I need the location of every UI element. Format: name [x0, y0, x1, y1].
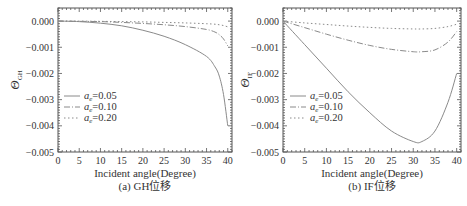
x-tick-label: 20: [138, 155, 148, 166]
x-tick-label: 40: [223, 155, 233, 166]
x-tick-label: 30: [180, 155, 190, 166]
x-tick-label: 25: [387, 155, 397, 166]
y-tick-label: −0.003: [26, 94, 54, 105]
x-tick-label: 35: [430, 155, 440, 166]
series-line-dashdot: [283, 21, 457, 52]
y-axis-title: ΘGH: [7, 70, 24, 90]
x-tick-label: 25: [159, 155, 169, 166]
chart-caption: (b) IF位移: [348, 179, 395, 193]
legend: ae=0.05ae=0.10ae=0.20: [290, 90, 343, 125]
x-tick-label: 20: [365, 155, 375, 166]
x-tick-label: 40: [452, 155, 462, 166]
x-tick-label: 15: [117, 155, 127, 166]
x-tick-label: 35: [202, 155, 212, 166]
x-tick-label: 5: [77, 155, 82, 166]
y-tick-label: −0.005: [26, 147, 54, 158]
y-tick-label: −0.002: [26, 68, 54, 79]
x-tick-label: 5: [302, 155, 307, 166]
plot-frame: [283, 8, 461, 152]
legend-label: ae=0.20: [310, 112, 343, 125]
y-tick-label: −0.003: [251, 94, 279, 105]
figure-canvas: 05101520253035400.000−0.001−0.002−0.003−…: [0, 0, 467, 206]
y-tick-label: −0.004: [26, 120, 54, 131]
x-axis-title: Incident angle(Degree): [321, 167, 423, 180]
y-tick-label: 0.000: [32, 16, 55, 27]
series-line-dotted: [283, 21, 457, 29]
y-tick-label: −0.001: [251, 42, 279, 53]
y-tick-label: −0.001: [26, 42, 54, 53]
x-tick-label: 0: [56, 155, 61, 166]
x-axis-title: Incident angle(Degree): [94, 167, 196, 180]
legend-label: ae=0.20: [84, 112, 117, 125]
x-tick-label: 15: [343, 155, 353, 166]
chart-a: 05101520253035400.000−0.001−0.002−0.003−…: [7, 8, 233, 193]
x-tick-label: 30: [408, 155, 418, 166]
y-tick-label: −0.002: [251, 68, 279, 79]
chart-b: 05101520253035400.000−0.001−0.002−0.003−…: [237, 8, 462, 193]
legend: ae=0.05ae=0.10ae=0.20: [64, 90, 117, 125]
chart-caption: (a) GH位移: [119, 179, 172, 193]
y-axis-title: ΘIF: [237, 72, 254, 88]
x-tick-label: 10: [95, 155, 105, 166]
x-tick-label: 0: [281, 155, 286, 166]
series-line-solid: [283, 21, 457, 143]
series-line-dashdot: [58, 21, 228, 46]
y-tick-label: 0.000: [257, 16, 280, 27]
y-tick-label: −0.004: [251, 120, 279, 131]
x-tick-label: 10: [321, 155, 331, 166]
y-tick-label: −0.005: [251, 147, 279, 158]
